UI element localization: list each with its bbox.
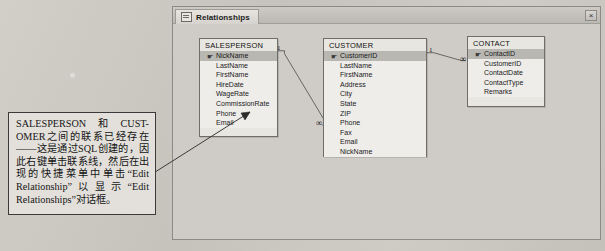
field-label: ZIP — [340, 110, 351, 117]
field-row[interactable]: ☛ CustomerID — [324, 51, 426, 61]
field-label: Fax — [340, 129, 352, 136]
field-row[interactable]: ZIP — [324, 109, 426, 119]
field-label: Phone — [216, 110, 236, 117]
table-contact-title: CONTACT — [468, 37, 544, 49]
field-label: FirstName — [340, 71, 372, 78]
cardinality-one-customer: 1 — [429, 46, 433, 54]
field-row[interactable]: FirstName — [200, 70, 277, 80]
primary-key-icon: ☛ — [475, 51, 481, 58]
field-row[interactable]: WageRate — [200, 89, 277, 99]
field-row[interactable]: City — [324, 89, 426, 99]
field-label: Remarks — [484, 88, 512, 95]
field-row[interactable]: LastName — [324, 61, 426, 71]
field-row[interactable]: HireDate — [200, 80, 277, 90]
field-label: ContactID — [484, 50, 515, 57]
field-row[interactable]: Phone — [324, 118, 426, 128]
field-row[interactable]: ☛ NickName — [200, 51, 277, 61]
field-row[interactable]: State — [324, 99, 426, 109]
cardinality-many-contact: ∞ — [460, 56, 466, 63]
field-label: WageRate — [216, 90, 249, 97]
relationships-window-icon — [181, 12, 192, 22]
field-row[interactable]: Address — [324, 80, 426, 90]
field-row[interactable]: Phone — [200, 109, 277, 119]
table-contact[interactable]: CONTACT ☛ ContactID CustomerID ContactDa… — [467, 36, 545, 107]
field-row[interactable]: CustomerID — [468, 59, 544, 69]
tab-relationships-label: Relationships — [196, 13, 250, 22]
close-icon[interactable]: × — [585, 10, 597, 21]
field-label: FirstName — [216, 71, 248, 78]
field-label: ContactType — [484, 79, 523, 86]
field-label: CommissionRate — [216, 100, 269, 107]
table-customer-fields: ☛ CustomerID LastName FirstName Address … — [324, 51, 426, 157]
field-row[interactable]: LastName — [200, 61, 277, 71]
field-row[interactable]: ContactType — [468, 78, 544, 88]
relationships-canvas[interactable]: 1 ∞ 1 ∞ SALESPERSON ☛ NickName LastName … — [173, 24, 600, 239]
field-label: LastName — [216, 62, 248, 69]
field-label: Phone — [340, 119, 360, 126]
field-row[interactable]: ContactDate — [468, 68, 544, 78]
table-contact-fields: ☛ ContactID CustomerID ContactDate Conta… — [468, 49, 544, 97]
field-label: Address — [340, 81, 366, 88]
primary-key-icon: ☛ — [207, 53, 213, 60]
field-row[interactable]: Remarks — [468, 87, 544, 97]
field-row[interactable]: Email — [324, 137, 426, 147]
field-label: ContactDate — [484, 69, 523, 76]
table-customer[interactable]: CUSTOMER ☛ CustomerID LastName FirstName… — [323, 38, 427, 157]
field-row[interactable]: NickName — [324, 147, 426, 157]
field-label: NickName — [340, 148, 372, 155]
field-label: CustomerID — [484, 60, 521, 67]
field-label: LastName — [340, 62, 372, 69]
annotation-text: SALESPERSON和CUST-OMER之间的联系已经存在——这是通过SQL创… — [16, 118, 149, 206]
field-row[interactable]: Fax — [324, 128, 426, 138]
cardinality-many-customer: ∞ — [316, 120, 322, 127]
field-row[interactable]: ☛ ContactID — [468, 49, 544, 59]
primary-key-icon: ☛ — [331, 53, 337, 60]
field-label: Email — [340, 138, 358, 145]
table-salesperson-title: SALESPERSON — [200, 39, 277, 51]
field-row[interactable]: Email — [200, 118, 277, 128]
table-customer-title: CUSTOMER — [324, 39, 426, 51]
window-titlebar: Relationships × — [173, 7, 600, 24]
field-row[interactable]: FirstName — [324, 70, 426, 80]
table-salesperson[interactable]: SALESPERSON ☛ NickName LastName FirstNam… — [199, 38, 278, 137]
field-row[interactable]: CommissionRate — [200, 99, 277, 109]
field-label: HireDate — [216, 81, 244, 88]
field-label: CustomerID — [340, 52, 377, 59]
relationships-window: Relationships × 1 ∞ 1 ∞ SALESPERSON ☛ Ni… — [172, 6, 601, 240]
field-label: City — [340, 90, 352, 97]
field-label: Email — [216, 119, 234, 126]
table-salesperson-fields: ☛ NickName LastName FirstName HireDate W… — [200, 51, 277, 128]
annotation-callout: SALESPERSON和CUST-OMER之间的联系已经存在——这是通过SQL创… — [8, 112, 156, 215]
tab-relationships[interactable]: Relationships — [175, 9, 259, 24]
field-label: State — [340, 100, 356, 107]
field-label: NickName — [216, 52, 248, 59]
